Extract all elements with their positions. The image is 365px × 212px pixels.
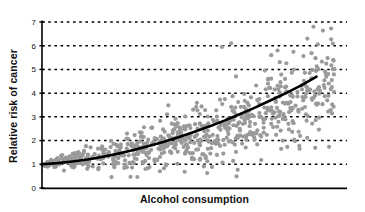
scatter-point: [236, 100, 240, 104]
scatter-point: [275, 125, 279, 129]
scatter-point: [283, 101, 287, 105]
scatter-point: [111, 162, 115, 166]
scatter-point: [195, 108, 199, 112]
scatter-point: [322, 78, 326, 82]
scatter-point: [216, 125, 220, 129]
scatter-point: [223, 143, 227, 147]
scatter-point: [218, 98, 222, 102]
scatter-point: [162, 166, 166, 170]
scatter-point: [242, 92, 246, 96]
scatter-point: [133, 133, 137, 137]
scatter-point: [126, 137, 130, 141]
scatter-point: [320, 59, 324, 63]
scatter-point: [290, 93, 294, 97]
scatter-point: [300, 107, 304, 111]
scatter-point: [297, 144, 301, 148]
scatter-point: [278, 110, 282, 114]
scatter-point: [313, 56, 317, 60]
scatter-point: [193, 122, 197, 126]
scatter-point: [191, 108, 195, 112]
scatter-point-outlier: [220, 45, 224, 49]
scatter-point: [147, 165, 151, 169]
scatter-point: [85, 167, 89, 171]
scatter-point: [138, 139, 142, 143]
scatter-point: [284, 61, 288, 65]
scatter-point: [206, 147, 210, 151]
scatter-point: [223, 97, 227, 101]
scatter-point: [198, 112, 202, 116]
scatter-point: [130, 165, 134, 169]
scatter-point: [254, 131, 258, 135]
scatter-point: [243, 117, 247, 121]
scatter-point: [230, 94, 234, 98]
scatter-point: [249, 95, 253, 99]
scatter-point: [203, 135, 207, 139]
scatter-point: [200, 152, 204, 156]
scatter-point: [332, 67, 336, 71]
scatter-point: [135, 175, 139, 179]
scatter-point: [300, 87, 304, 91]
scatter-point: [254, 83, 258, 87]
scatter-point: [327, 81, 331, 85]
scatter-point: [331, 105, 335, 109]
scatter-point: [253, 137, 257, 141]
scatter-point: [206, 129, 210, 133]
scatter-point: [274, 115, 278, 119]
scatter-point: [221, 151, 225, 155]
scatter-point: [324, 62, 328, 66]
scatter-point: [91, 164, 95, 168]
scatter-point: [281, 139, 285, 143]
scatter-point: [245, 101, 249, 105]
scatter-point: [310, 98, 314, 102]
scatter-point: [313, 93, 317, 97]
scatter-point: [188, 126, 192, 130]
scatter-point: [70, 156, 74, 160]
scatter-point: [323, 94, 327, 98]
scatter-point: [234, 174, 238, 178]
scatter-point: [258, 133, 262, 137]
scatter-point: [167, 142, 171, 146]
scatter-point: [287, 110, 291, 114]
scatter-point: [86, 153, 90, 157]
scatter-point: [125, 146, 129, 150]
scatter-point: [175, 162, 179, 166]
scatter-point: [240, 142, 244, 146]
scatter-point: [327, 145, 331, 149]
scatter-point: [216, 138, 220, 142]
scatter-point: [286, 122, 290, 126]
scatter-point: [279, 147, 283, 151]
scatter-point: [226, 132, 230, 136]
scatter-point: [316, 42, 320, 46]
scatter-plot: 01234567: [0, 0, 365, 212]
scatter-point: [123, 158, 127, 162]
scatter-point: [283, 77, 287, 81]
scatter-point: [305, 136, 309, 140]
scatter-point: [60, 153, 64, 157]
scatter-point-outlier: [229, 41, 233, 45]
scatter-point: [149, 126, 153, 130]
scatter-point: [210, 165, 214, 169]
scatter-point: [132, 161, 136, 165]
scatter-point: [59, 157, 63, 161]
scatter-point: [166, 133, 170, 137]
scatter-point: [125, 165, 129, 169]
scatter-point: [315, 64, 319, 68]
y-tick-label-4: 4: [32, 89, 37, 98]
scatter-point: [141, 161, 145, 165]
scatter-point: [111, 142, 115, 146]
scatter-point: [248, 120, 252, 124]
scatter-point: [178, 139, 182, 143]
scatter-point: [248, 124, 252, 128]
scatter-point: [266, 81, 270, 85]
scatter-point: [178, 128, 182, 132]
scatter-point: [244, 133, 248, 137]
scatter-point: [259, 158, 263, 162]
scatter-point: [211, 133, 215, 137]
scatter-point: [96, 147, 100, 151]
scatter-point: [315, 87, 319, 91]
scatter-point: [215, 134, 219, 138]
scatter-point: [303, 71, 307, 75]
scatter-point: [176, 121, 180, 125]
scatter-points: [40, 25, 336, 180]
scatter-point: [170, 122, 174, 126]
